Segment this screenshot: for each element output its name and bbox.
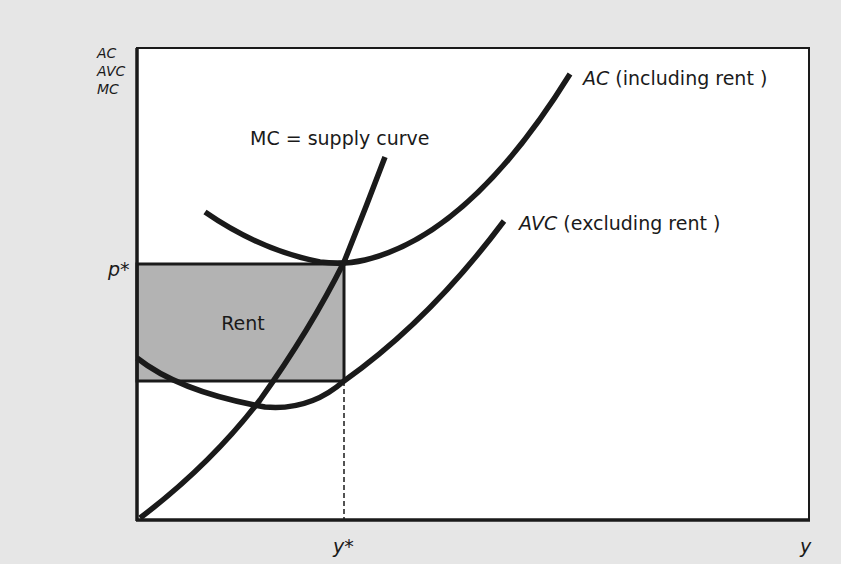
ac-curve-label: AC (including rent ) [581, 67, 767, 89]
avc-label-rest: (excluding rent ) [557, 212, 720, 234]
mc-curve-label: MC = supply curve [250, 127, 430, 149]
y-axis-label-avc: AVC [96, 63, 125, 79]
avc-curve-label: AVC (excluding rent ) [517, 212, 720, 234]
x-axis-label: y [799, 535, 812, 557]
rent-diagram: Rent AC AVC MC p* y* y MC = supply curve… [0, 0, 841, 564]
diagram-canvas: Rent AC AVC MC p* y* y MC = supply curve… [0, 0, 841, 564]
y-star-label: y* [332, 535, 354, 557]
rent-label: Rent [221, 312, 265, 334]
avc-label-italic: AVC [517, 212, 558, 234]
y-axis-label-mc: MC [97, 81, 119, 97]
ac-label-rest: (including rent ) [609, 67, 767, 89]
p-star-label: p* [107, 258, 130, 280]
ac-label-italic: AC [581, 67, 610, 89]
y-axis-label-ac: AC [96, 45, 117, 61]
